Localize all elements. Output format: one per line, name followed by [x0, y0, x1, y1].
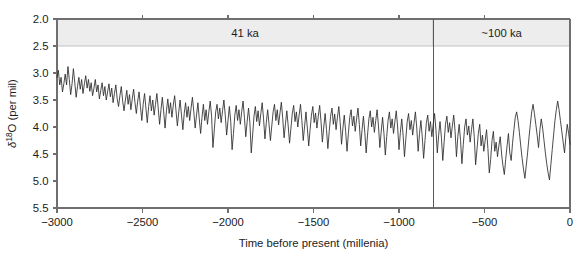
x-axis-title: Time before present (millenia) — [239, 237, 389, 249]
x-tick-label: −2000 — [212, 216, 244, 228]
x-tick-label: −3000 — [41, 216, 73, 228]
y-tick-label: 3.0 — [33, 67, 49, 79]
band-100ka-label: ~100 ka — [481, 27, 522, 39]
y-tick-label: 2.5 — [33, 40, 49, 52]
x-tick-label: −1500 — [298, 216, 330, 228]
delta-o18-line-chart: 41 ka ~100 ka −3000−2500−2000−1500−1000−… — [0, 0, 583, 260]
y-tick-label: 4.5 — [33, 148, 49, 160]
y-tick-label: 4.0 — [33, 121, 49, 133]
x-tick-label: −2500 — [127, 216, 159, 228]
x-tick-label: 0 — [567, 216, 573, 228]
chart-figure: 41 ka ~100 ka −3000−2500−2000−1500−1000−… — [0, 0, 583, 260]
y-tick-label: 3.5 — [33, 94, 49, 106]
x-tick-label: −1000 — [383, 216, 415, 228]
y-tick-label: 2.0 — [33, 13, 49, 25]
band-41ka-label: 41 ka — [231, 27, 259, 39]
x-tick-label: −500 — [472, 216, 497, 228]
interval-bands: 41 ka ~100 ka — [57, 19, 570, 46]
y-tick-label: 5.0 — [33, 175, 49, 187]
y-tick-label: 5.5 — [33, 202, 49, 214]
